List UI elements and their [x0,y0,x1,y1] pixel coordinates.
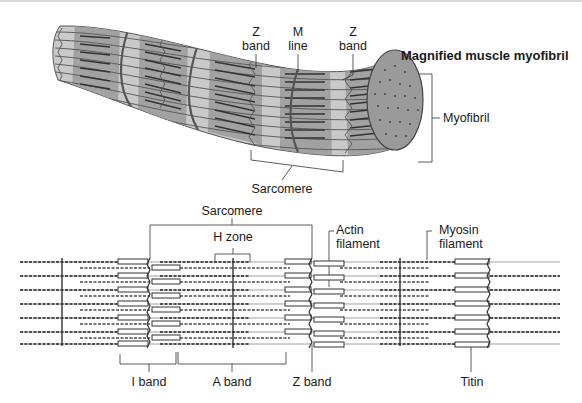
a-band-label: A band [213,375,252,389]
actin-filament-label: Actinfilament [336,223,380,251]
z-band-label-left: Zband [242,25,270,53]
myosin-filament-label: Myosinfilament [439,223,483,251]
titin-label: Titin [460,375,483,389]
i-band-label: I band [132,375,167,389]
h-zone-label: H zone [213,230,253,244]
z-band-label-right: Zband [339,25,367,53]
sarcomere-label-top: Sarcomere [251,182,312,196]
myofibril-label: Myofibril [443,111,490,125]
diagram-title: Magnified muscle myofibril [401,49,569,63]
z-band-label-bottom: Z band [293,375,332,389]
m-line-label: Mline [288,25,307,53]
sarcomere-label-bottom: Sarcomere [201,204,262,218]
